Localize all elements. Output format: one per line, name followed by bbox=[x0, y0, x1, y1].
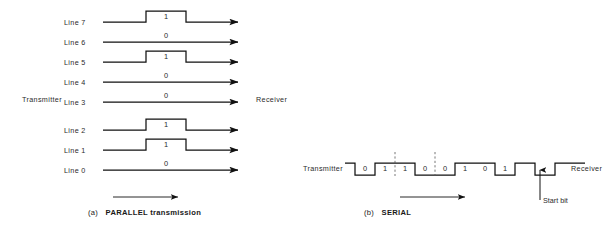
serial-bit-6: 0 bbox=[479, 165, 491, 172]
serial-bit-4: 0 bbox=[439, 165, 451, 172]
serial-bit-7: 1 bbox=[499, 165, 511, 172]
line-1-bit-value: 1 bbox=[160, 141, 172, 148]
diagram-canvas bbox=[0, 0, 613, 230]
line-label-7: Line 7 bbox=[64, 19, 86, 26]
serial-bit-0: 0 bbox=[359, 165, 371, 172]
line-label-4: Line 4 bbox=[64, 79, 86, 86]
parallel-caption: (a) PARALLEL transmission bbox=[88, 209, 201, 217]
line-5-bit-value: 1 bbox=[160, 53, 172, 60]
serial-transmitter-label: Transmitter bbox=[303, 165, 343, 172]
parallel-caption-text: PARALLEL transmission bbox=[106, 208, 201, 217]
line-6-bit-value: 0 bbox=[160, 32, 172, 39]
serial-caption-text: SERIAL bbox=[382, 208, 412, 217]
line-label-6: Line 6 bbox=[64, 39, 86, 46]
line-0-bit-value: 0 bbox=[160, 160, 172, 167]
parallel-transmitter-label: Transmitter bbox=[22, 96, 62, 103]
serial-receiver-label: Receiver bbox=[571, 165, 602, 172]
line-label-3: Line 3 bbox=[64, 99, 86, 106]
line-label-2: Line 2 bbox=[64, 127, 86, 134]
line-label-1: Line 1 bbox=[64, 147, 86, 154]
parallel-receiver-label: Receiver bbox=[256, 96, 287, 103]
line-7-bit-value: 1 bbox=[160, 13, 172, 20]
line-2-bit-value: 1 bbox=[160, 121, 172, 128]
serial-bit-1: 1 bbox=[379, 165, 391, 172]
line-label-0: Line 0 bbox=[64, 167, 86, 174]
line-4-bit-value: 0 bbox=[160, 72, 172, 79]
line-3-bit-value: 0 bbox=[160, 92, 172, 99]
transmission-diagram: Transmitter Receiver Line 7 Line 6 Line … bbox=[0, 0, 613, 230]
serial-bit-5: 1 bbox=[459, 165, 471, 172]
start-bit-annotation: Start bit bbox=[543, 197, 568, 204]
serial-caption: (b) SERIAL bbox=[364, 209, 411, 217]
line-label-5: Line 5 bbox=[64, 59, 86, 66]
parallel-caption-index: (a) bbox=[88, 208, 98, 217]
serial-caption-index: (b) bbox=[364, 208, 374, 217]
serial-bit-3: 0 bbox=[419, 165, 431, 172]
serial-bit-2: 1 bbox=[399, 165, 411, 172]
